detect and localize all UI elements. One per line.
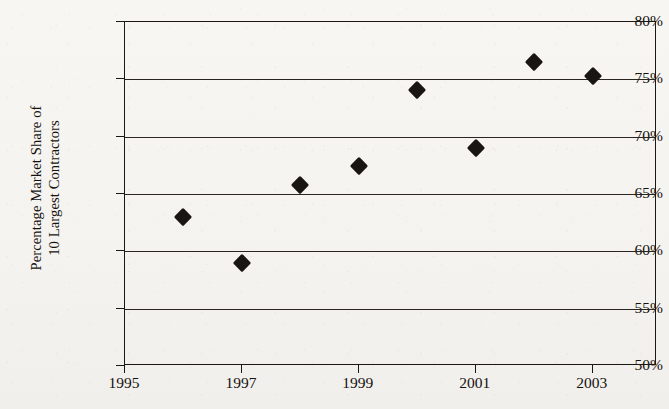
y-axis-tick bbox=[116, 365, 124, 366]
data-point-marker bbox=[408, 80, 426, 98]
data-point-marker bbox=[583, 67, 601, 85]
y-axis-tick bbox=[116, 308, 124, 309]
y-axis-title: Percentage Market Share of 10 Largest Co… bbox=[24, 38, 68, 338]
gridline bbox=[125, 79, 655, 80]
x-axis-tick-label: 1995 bbox=[84, 374, 164, 392]
y-axis-tick bbox=[116, 136, 124, 137]
y-axis-tick bbox=[116, 21, 124, 22]
gridline bbox=[125, 194, 655, 195]
x-axis-tick bbox=[124, 365, 125, 373]
x-axis-tick bbox=[475, 365, 476, 373]
data-point-marker bbox=[525, 53, 543, 71]
y-axis-title-line-2: 10 Largest Contractors bbox=[46, 120, 64, 256]
y-axis-tick bbox=[116, 193, 124, 194]
y-axis-title-line-1: Percentage Market Share of bbox=[28, 105, 46, 270]
gridline bbox=[125, 309, 655, 310]
data-point-marker bbox=[174, 208, 192, 226]
data-point-marker bbox=[233, 254, 251, 272]
x-axis-tick-label: 1999 bbox=[318, 374, 398, 392]
data-point-marker bbox=[467, 139, 485, 157]
scatter-chart: Percentage Market Share of 10 Largest Co… bbox=[0, 0, 669, 409]
gridline bbox=[125, 137, 655, 138]
x-axis-tick bbox=[592, 365, 593, 373]
y-axis-tick bbox=[116, 78, 124, 79]
x-axis-tick bbox=[358, 365, 359, 373]
plot-area bbox=[124, 21, 656, 365]
y-axis-tick bbox=[116, 250, 124, 251]
data-point-marker bbox=[291, 176, 309, 194]
data-point-marker bbox=[350, 157, 368, 175]
gridline bbox=[125, 251, 655, 252]
x-axis-tick bbox=[241, 365, 242, 373]
x-axis-tick-label: 1997 bbox=[201, 374, 281, 392]
x-axis-tick-label: 2003 bbox=[552, 374, 632, 392]
x-axis-tick-label: 2001 bbox=[435, 374, 515, 392]
